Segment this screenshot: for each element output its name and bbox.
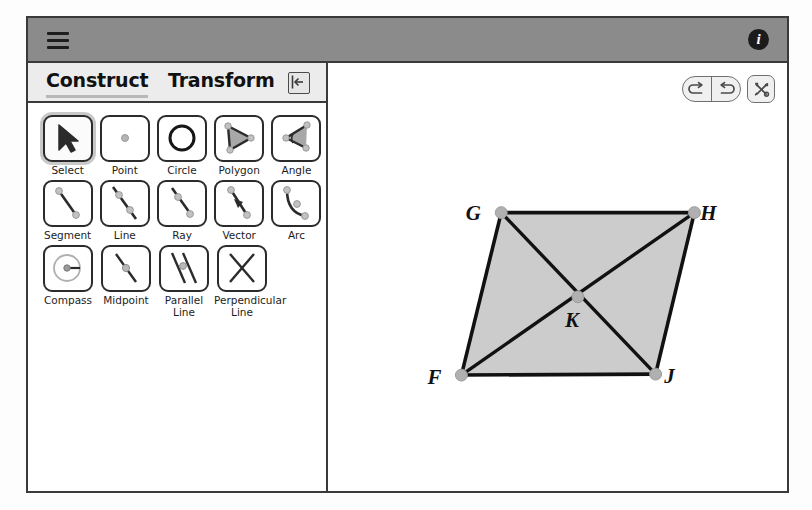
vertex-label-K: K	[564, 308, 581, 332]
app-root: i Construct Transform	[0, 0, 812, 510]
hamburger-line	[47, 39, 69, 42]
vertex-G[interactable]	[495, 207, 507, 219]
parallelogram-figure[interactable]: GHJFK	[328, 63, 787, 491]
tool-grid: Select Point	[28, 103, 326, 491]
angle-icon	[271, 115, 321, 162]
tool-label: Arc	[269, 229, 324, 241]
sidebar-tabstrip: Construct Transform	[28, 63, 326, 103]
vector-icon	[214, 180, 264, 227]
perpendicular-line-icon	[217, 245, 267, 292]
tool-label: Parallel Line	[156, 294, 212, 318]
main-body: Construct Transform	[28, 63, 787, 491]
tool-line[interactable]: Line	[97, 180, 152, 241]
tool-perpendicular-line[interactable]: Perpendicular Line	[214, 245, 270, 318]
point-icon	[100, 115, 150, 162]
tool-vector[interactable]: Vector	[212, 180, 267, 241]
info-icon[interactable]: i	[748, 29, 769, 50]
title-bar: i	[28, 18, 787, 63]
tool-label: Compass	[40, 294, 96, 306]
edge-JF	[461, 374, 655, 375]
tool-angle[interactable]: Angle	[269, 115, 324, 176]
tool-parallel-line[interactable]: Parallel Line	[156, 245, 212, 318]
vertex-label-G: G	[466, 201, 481, 225]
hamburger-line	[47, 46, 69, 49]
tool-polygon[interactable]: Polygon	[212, 115, 267, 176]
midpoint-icon	[101, 245, 151, 292]
circle-icon	[157, 115, 207, 162]
tool-row: Segment Line	[40, 180, 326, 241]
vertex-label-F: F	[427, 365, 442, 389]
tool-arc[interactable]: Arc	[269, 180, 324, 241]
compass-icon	[43, 245, 93, 292]
collapse-arrow-glyph	[289, 73, 307, 91]
tool-select[interactable]: Select	[40, 115, 95, 176]
tool-label: Circle	[154, 164, 209, 176]
vertex-label-H: H	[699, 201, 717, 225]
app-window: i Construct Transform	[26, 16, 789, 493]
vertex-label-J: J	[663, 364, 675, 388]
parallel-line-icon	[159, 245, 209, 292]
tool-label: Segment	[40, 229, 95, 241]
vertex-K[interactable]	[572, 291, 584, 303]
polygon-icon	[214, 115, 264, 162]
tool-sidebar: Construct Transform	[28, 63, 328, 491]
segment-icon	[43, 180, 93, 227]
vertex-F[interactable]	[455, 369, 467, 381]
tool-label: Midpoint	[98, 294, 154, 306]
geometry-canvas[interactable]: GHJFK	[328, 63, 787, 491]
tool-label: Point	[97, 164, 152, 176]
vertex-J[interactable]	[650, 368, 662, 380]
tab-construct[interactable]: Construct	[46, 69, 148, 94]
tool-row: Compass Midpoint	[40, 245, 326, 318]
tool-circle[interactable]: Circle	[154, 115, 209, 176]
line-icon	[100, 180, 150, 227]
tab-transform[interactable]: Transform	[168, 69, 275, 94]
tool-compass[interactable]: Compass	[40, 245, 96, 318]
tool-label: Ray	[154, 229, 209, 241]
tool-label: Select	[40, 164, 95, 176]
tool-ray[interactable]: Ray	[154, 180, 209, 241]
collapse-panel-left-icon[interactable]	[288, 72, 310, 94]
hamburger-line	[47, 32, 69, 35]
arc-icon	[271, 180, 321, 227]
vertex-H[interactable]	[688, 207, 700, 219]
hamburger-menu-icon[interactable]	[47, 32, 69, 50]
tool-label: Angle	[269, 164, 324, 176]
tool-label: Vector	[212, 229, 267, 241]
arrow-cursor-icon	[43, 115, 93, 162]
tool-label: Polygon	[212, 164, 267, 176]
tool-point[interactable]: Point	[97, 115, 152, 176]
ray-icon	[157, 180, 207, 227]
tool-label: Line	[97, 229, 152, 241]
tool-label: Perpendicular Line	[214, 294, 270, 318]
tool-row: Select Point	[40, 115, 326, 176]
tool-segment[interactable]: Segment	[40, 180, 95, 241]
tool-midpoint[interactable]: Midpoint	[98, 245, 154, 318]
